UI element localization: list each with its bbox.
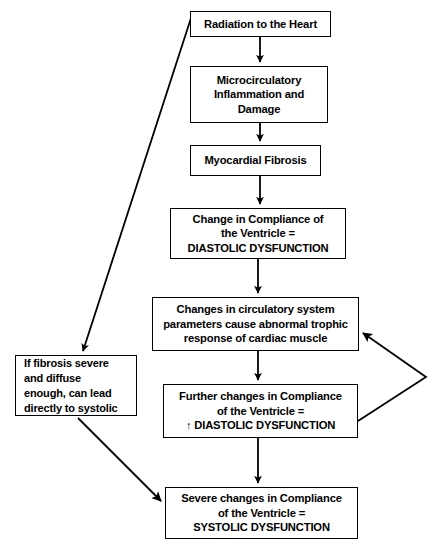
node-label: Further changes in Complianceof the Vent… [168, 389, 353, 433]
node-label: Radiation to the Heart [195, 17, 326, 32]
node-label: Myocardial Fibrosis [195, 153, 316, 168]
node-further-diastolic-dysfunction[interactable]: Further changes in Complianceof the Vent… [163, 384, 358, 438]
node-circulatory-system-changes[interactable]: Changes in circulatory systemparameters … [152, 297, 359, 351]
edge-further-circulatory-feedback [358, 333, 426, 421]
node-systolic-dysfunction[interactable]: Severe changes in Complianceof the Ventr… [165, 487, 358, 539]
flowchart-canvas: Radiation to the Heart MicrocirculatoryI… [0, 0, 439, 551]
node-label: If fibrosis severeand diffuseenough, can… [24, 356, 132, 416]
node-radiation-to-the-heart[interactable]: Radiation to the Heart [190, 11, 331, 37]
edge-ifsevere-severe [78, 418, 161, 501]
node-label: MicrocirculatoryInflammation andDamage [195, 73, 323, 117]
node-label: Change in Compliance ofthe Ventricle =DI… [175, 212, 341, 256]
node-if-fibrosis-severe[interactable]: If fibrosis severeand diffuseenough, can… [15, 355, 137, 416]
node-label: Severe changes in Complianceof the Ventr… [170, 491, 353, 535]
node-label: Changes in circulatory systemparameters … [157, 302, 354, 346]
node-myocardial-fibrosis[interactable]: Myocardial Fibrosis [190, 145, 321, 176]
node-microcirculatory-inflammation[interactable]: MicrocirculatoryInflammation andDamage [190, 66, 328, 123]
node-diastolic-dysfunction[interactable]: Change in Compliance ofthe Ventricle =DI… [170, 208, 346, 259]
